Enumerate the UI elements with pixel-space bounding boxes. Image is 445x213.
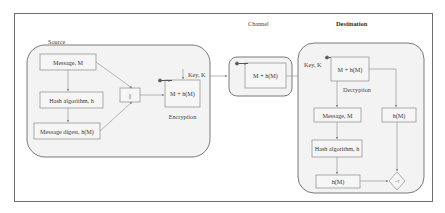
- source-hash-algorithm-text: Hash algorithm, h: [49, 97, 94, 104]
- received-hash-text: h(M): [393, 112, 406, 120]
- encryption-label: Encryption: [169, 113, 197, 120]
- destination-key-label: Key, K: [304, 61, 322, 68]
- source-digest-text: Message digest, h(M): [40, 128, 94, 136]
- source-label: Source: [48, 38, 65, 45]
- concat-symbol: ||: [129, 92, 131, 99]
- computed-hash-text: h(M): [332, 178, 345, 186]
- compare-symbol: =?: [394, 179, 400, 184]
- destination-hash-algorithm-text: Hash algorithm, h: [315, 145, 360, 152]
- encryption-payload-text: M + h(M): [170, 90, 195, 98]
- destination-label: Destination: [336, 20, 368, 27]
- destination-message-text: Message, M: [322, 112, 353, 119]
- source-key-label: Key, K: [188, 71, 206, 78]
- source-message-text: Message, M: [53, 59, 84, 66]
- diagram-canvas: Source Message, M Hash algorithm, h Mess…: [0, 0, 445, 213]
- decryption-payload-text: M + h(M): [338, 66, 363, 74]
- channel-label: Channel: [248, 20, 269, 27]
- channel-payload-text: M + h(M): [253, 72, 278, 80]
- decryption-label: Decryption: [343, 86, 371, 93]
